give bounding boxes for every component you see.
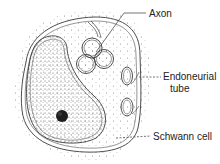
label-tube: tube xyxy=(170,83,190,94)
axon-left xyxy=(77,55,96,74)
nucleolus xyxy=(56,110,68,122)
label-axon: Axon xyxy=(149,8,172,19)
label-endoneurial: Endoneurial xyxy=(163,71,216,82)
label-schwann-cell: Schwann cell xyxy=(153,131,212,142)
axon-right xyxy=(95,50,114,69)
schwann-cell-diagram: Axon Endoneurial tube Schwann cell xyxy=(0,0,220,164)
